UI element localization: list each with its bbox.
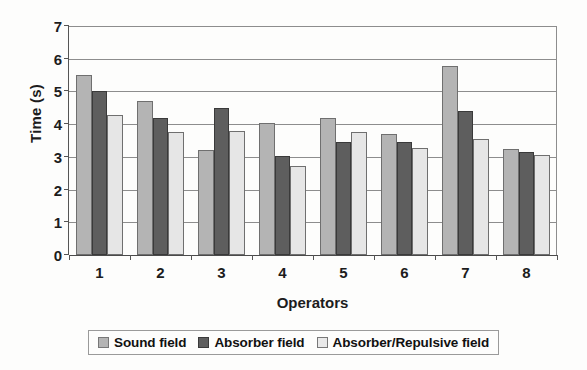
bar <box>76 75 92 255</box>
x-tick-mark <box>313 255 314 260</box>
x-tick-label-4: 4 <box>278 264 286 281</box>
bar <box>534 155 550 255</box>
bar <box>229 131 245 255</box>
legend-label: Absorber field <box>214 335 304 350</box>
x-tick-label-8: 8 <box>522 264 530 281</box>
x-axis-title: Operators <box>68 294 557 311</box>
x-tick-mark <box>435 255 436 260</box>
bar-group <box>320 26 367 255</box>
legend-swatch-icon <box>317 337 328 348</box>
bar <box>198 150 214 255</box>
legend-item: Absorber/Repulsive field <box>317 335 490 350</box>
bar <box>107 115 123 255</box>
bar <box>473 139 489 255</box>
bar <box>290 166 306 255</box>
bar-group <box>198 26 245 255</box>
x-tick-label-3: 3 <box>217 264 225 281</box>
x-tick-label-5: 5 <box>339 264 347 281</box>
bar-group <box>381 26 428 255</box>
legend-swatch-icon <box>98 337 109 348</box>
bar <box>412 148 428 255</box>
bar-group <box>76 26 123 255</box>
y-axis-title: Time (s) <box>27 39 44 189</box>
bar <box>168 132 184 255</box>
bar <box>137 101 153 255</box>
bar <box>503 149 519 255</box>
legend-item: Sound field <box>98 335 186 350</box>
x-tick-mark <box>69 255 70 260</box>
x-tick-label-2: 2 <box>156 264 164 281</box>
bar <box>351 132 367 255</box>
legend-item: Absorber field <box>198 335 304 350</box>
bar-group <box>503 26 550 255</box>
x-tick-mark <box>130 255 131 260</box>
plot-area: 01234567 12345678 <box>68 26 557 255</box>
bar <box>458 111 474 255</box>
y-tick-label-5: 5 <box>54 83 62 100</box>
y-tick-label-4: 4 <box>54 116 62 133</box>
x-tick-mark <box>374 255 375 260</box>
legend-swatch-icon <box>198 337 209 348</box>
x-tick-label-7: 7 <box>461 264 469 281</box>
x-tick-mark <box>191 255 192 260</box>
legend-label: Sound field <box>114 335 186 350</box>
bar-group <box>259 26 306 255</box>
y-tick-label-1: 1 <box>54 214 62 231</box>
x-tick-label-1: 1 <box>95 264 103 281</box>
y-tick-label-3: 3 <box>54 148 62 165</box>
x-tick-label-6: 6 <box>400 264 408 281</box>
y-tick-label-2: 2 <box>54 181 62 198</box>
chart-legend: Sound fieldAbsorber fieldAbsorber/Repuls… <box>88 330 499 355</box>
bar <box>381 134 397 255</box>
bar <box>336 142 352 255</box>
bar <box>92 91 108 255</box>
bar <box>519 152 535 255</box>
bar-series-container <box>69 26 557 255</box>
bar <box>275 156 291 255</box>
bar <box>153 118 169 255</box>
y-tick-label-6: 6 <box>54 50 62 67</box>
legend-label: Absorber/Repulsive field <box>333 335 490 350</box>
y-tick-label-0: 0 <box>54 247 62 264</box>
bar <box>442 66 458 255</box>
bar <box>320 118 336 255</box>
bar-chart-figure: Time (s) 01234567 12345678 Operators Sou… <box>0 0 587 370</box>
bar <box>397 142 413 255</box>
bar <box>259 123 275 255</box>
x-tick-mark <box>252 255 253 260</box>
x-tick-mark <box>496 255 497 260</box>
bar-group <box>442 26 489 255</box>
x-tick-mark <box>557 255 558 260</box>
bar <box>214 108 230 255</box>
bar-group <box>137 26 184 255</box>
y-tick-label-7: 7 <box>54 18 62 35</box>
